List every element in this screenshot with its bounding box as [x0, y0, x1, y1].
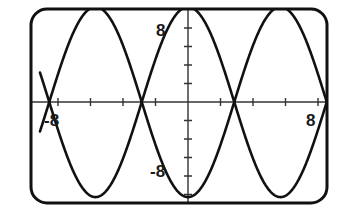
plot-canvas [0, 0, 358, 212]
x-axis-label-negative-eight: -8 [44, 112, 59, 129]
graph-figure: -8 8 8 -8 [0, 0, 358, 212]
y-axis-label-positive-eight: 8 [156, 22, 165, 39]
y-axis-label-negative-eight: -8 [150, 163, 165, 180]
x-axis-label-positive-eight: 8 [306, 112, 315, 129]
